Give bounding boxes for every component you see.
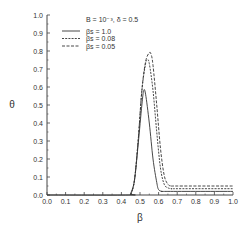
y-tick-label: 0.1 <box>33 174 43 181</box>
axes <box>47 15 233 195</box>
x-tick-label: 0.7 <box>172 198 182 205</box>
y-tick-label: 0.0 <box>33 192 43 199</box>
series <box>47 52 233 195</box>
x-axis-label: β <box>137 212 143 223</box>
x-tick-label: 1.0 <box>228 198 238 205</box>
x-tick-label: 0.4 <box>117 198 127 205</box>
chart: 0.00.10.20.30.40.50.60.70.80.91.00.00.10… <box>0 0 248 233</box>
x-tick-label: 0.6 <box>154 198 164 205</box>
y-tick-label: 1.0 <box>33 12 43 19</box>
y-tick-label: 0.5 <box>33 102 43 109</box>
y-tick-label: 0.2 <box>33 156 43 163</box>
x-tick-label: 0.3 <box>98 198 108 205</box>
x-tick-label: 0.0 <box>42 198 52 205</box>
series-line-1 <box>47 90 233 196</box>
y-axis-label: θ <box>9 99 15 110</box>
series-line-3 <box>131 52 233 195</box>
y-tick-label: 0.6 <box>33 84 43 91</box>
ticks: 0.00.10.20.30.40.50.60.70.80.91.00.00.10… <box>33 12 238 206</box>
x-tick-label: 0.5 <box>135 198 145 205</box>
y-tick-label: 0.9 <box>33 30 43 37</box>
y-tick-label: 0.8 <box>33 48 43 55</box>
y-tick-label: 0.3 <box>33 138 43 145</box>
y-tick-label: 0.7 <box>33 66 43 73</box>
x-tick-label: 0.2 <box>79 198 89 205</box>
legend-label-3: βs = 0.05 <box>86 43 115 51</box>
chart-svg: 0.00.10.20.30.40.50.60.70.80.91.00.00.10… <box>0 0 248 233</box>
x-tick-label: 0.9 <box>210 198 220 205</box>
x-tick-label: 0.1 <box>61 198 71 205</box>
legend-annotation: B = 10⁻³, δ = 0.5 <box>86 16 138 23</box>
y-tick-label: 0.4 <box>33 120 43 127</box>
series-line-2 <box>131 60 233 195</box>
legend: βs = 1.0βs = 0.08βs = 0.05 <box>62 28 115 51</box>
x-tick-label: 0.8 <box>191 198 201 205</box>
